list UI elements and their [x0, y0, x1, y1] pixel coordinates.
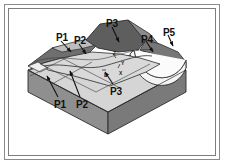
callout-label-p3-top: P3	[106, 19, 118, 29]
axis-label-y: Y	[121, 61, 124, 66]
callout-label-p3-bottom: P3	[110, 87, 122, 97]
figure-root: P1 P2 P3 P4 P5 P3 P1 P2 Z Y D X	[0, 0, 226, 166]
axis-label-z: Z	[113, 51, 116, 56]
callout-label-p2-bottom: P2	[76, 100, 88, 110]
axis-label-x: X	[119, 71, 122, 76]
callout-label-p5: P5	[163, 28, 175, 38]
axis-label-d: D	[104, 73, 108, 78]
callout-label-p1-top: P1	[56, 33, 68, 43]
callout-label-p1-bottom: P1	[54, 100, 66, 110]
callout-label-p2-top: P2	[74, 36, 86, 46]
callout-label-p4: P4	[141, 35, 153, 45]
